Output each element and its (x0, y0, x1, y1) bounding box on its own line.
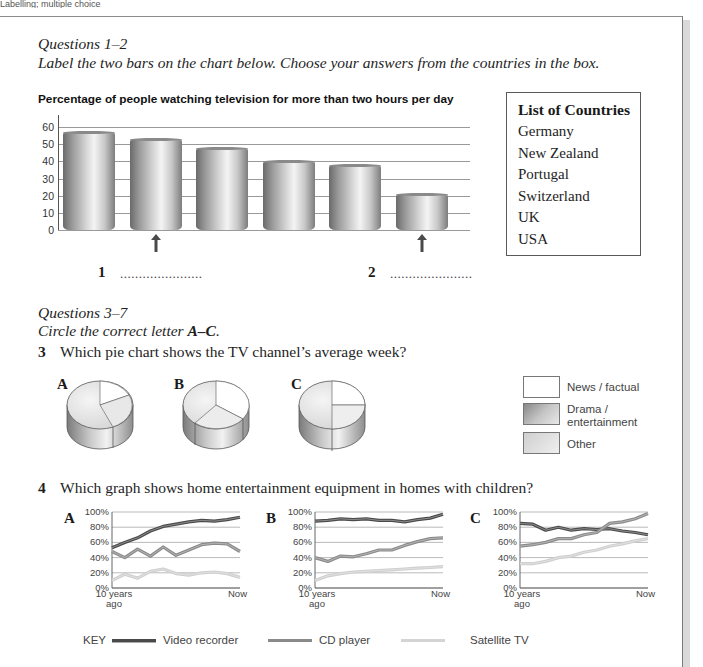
y-tick-label: 80% (281, 522, 312, 532)
line-chart-c[interactable]: 100%80%60%40%20%0%10 yearsagoNow (486, 509, 661, 619)
page-header: Labelling; multiple choice (0, 0, 160, 8)
country-list-box: List of Countries Germany New Zealand Po… (506, 92, 641, 256)
country-item: UK (518, 207, 640, 229)
answer-1-blank[interactable]: ...................... (120, 266, 203, 282)
legend-swatch-news (523, 376, 560, 398)
bar-top (396, 193, 448, 196)
legend-label-news: News / factual (567, 381, 639, 394)
y-tick-label: 60% (486, 537, 517, 547)
q4-option-a[interactable]: A (64, 510, 75, 527)
instruction-letters: A–C (188, 322, 216, 339)
bar (396, 194, 448, 230)
line-chart-a[interactable]: 100%80%60%40%20%0%10 yearsagoNow (78, 509, 253, 619)
line-chart-b[interactable]: 100%80%60%40%20%0%10 yearsagoNow (281, 509, 456, 619)
y-tick-label: 80% (486, 522, 517, 532)
y-tick-label: 20% (78, 568, 109, 578)
y-axis (58, 115, 59, 230)
y-tick-label: 40% (486, 553, 517, 563)
y-tick-label: 100% (281, 507, 312, 517)
question-3-text: Which pie chart shows the TV channel’s a… (60, 343, 406, 360)
country-item: USA (518, 229, 640, 251)
x-label-end: Now (636, 589, 655, 599)
legend-swatch-other (523, 432, 560, 454)
section-1-heading: Questions 1–2 (38, 34, 127, 53)
bar-top (63, 131, 115, 134)
q4-option-b[interactable]: B (266, 510, 276, 527)
answer-2-blank[interactable]: ...................... (390, 266, 473, 282)
question-3: 3Which pie chart shows the TV channel’s … (38, 343, 406, 361)
gridline (58, 127, 470, 128)
y-tick-label: 60 (38, 122, 54, 132)
key-label-satellite: Satellite TV (470, 633, 529, 647)
bar-top (329, 164, 381, 167)
question-4-number: 4 (38, 479, 60, 497)
key-swatch-cd (268, 639, 312, 642)
question-3-number: 3 (38, 343, 60, 361)
y-tick-label: 100% (78, 507, 109, 517)
section-1-instruction: Label the two bars on the chart below. C… (38, 53, 599, 72)
y-tick-label: 20% (281, 568, 312, 578)
country-list-title: List of Countries (518, 99, 640, 121)
legend-drama-line1: Drama / (567, 403, 608, 415)
bar (196, 148, 248, 230)
bar-chart: 0102030405060 (38, 115, 473, 240)
y-tick-label: 20% (486, 568, 517, 578)
question-4: 4Which graph shows home entertainment eq… (38, 479, 533, 497)
y-tick-label: 40 (38, 156, 54, 166)
y-tick-label: 50 (38, 139, 54, 149)
section-2-heading: Questions 3–7 (38, 303, 127, 322)
header-divider (0, 16, 683, 17)
bar-top (196, 147, 248, 150)
key-label-cd: CD player (319, 633, 370, 647)
x-label-end: Now (431, 589, 450, 599)
x-label-start: 10 yearsago (501, 589, 543, 609)
x-label-start: 10 yearsago (296, 589, 338, 609)
y-tick-label: 100% (486, 507, 517, 517)
y-tick-label: 40% (281, 553, 312, 563)
legend-label-other: Other (567, 438, 596, 451)
bar (63, 132, 115, 230)
key-label-video: Video recorder (163, 633, 238, 647)
legend-swatch-drama (523, 403, 560, 425)
y-tick-label: 60% (78, 537, 109, 547)
key-label: KEY (83, 633, 106, 647)
y-tick-label: 0 (38, 225, 54, 235)
page-shadow (683, 20, 690, 667)
country-item: Portugal (518, 164, 640, 186)
y-tick-label: 10 (38, 208, 54, 218)
y-tick-label: 80% (78, 522, 109, 532)
instruction-period: . (216, 322, 220, 339)
key-swatch-video (112, 639, 156, 642)
country-item: Switzerland (518, 186, 640, 208)
pie-chart-a[interactable] (65, 375, 135, 453)
bar-top (130, 138, 182, 141)
y-tick-label: 30 (38, 174, 54, 184)
y-tick-label: 40% (78, 553, 109, 563)
country-item: Germany (518, 121, 640, 143)
gridline (58, 230, 470, 231)
x-label-end: Now (228, 589, 247, 599)
pie-chart-b[interactable] (181, 375, 251, 453)
line-chart-key: KEY Video recorder CD player Satellite T… (83, 633, 603, 647)
bar-top (263, 160, 315, 163)
bar (263, 161, 315, 230)
question-4-text: Which graph shows home entertainment equ… (60, 479, 533, 496)
answer-1-number: 1 (98, 264, 106, 281)
bar-chart-title: Percentage of people watching television… (38, 92, 454, 106)
answer-2-number: 2 (368, 264, 376, 281)
legend-label-drama: Drama /entertainment (567, 403, 637, 429)
section-2-instruction: Circle the correct letter A–C. (38, 321, 220, 340)
x-label-start: 10 yearsago (93, 589, 135, 609)
y-tick-label: 60% (281, 537, 312, 547)
legend-drama-line2: entertainment (567, 416, 637, 428)
bar (130, 139, 182, 230)
instruction-text: Circle the correct letter (38, 322, 188, 339)
arrow-up-icon (417, 234, 427, 252)
key-swatch-satellite (401, 639, 445, 642)
pie-chart-c[interactable] (297, 375, 367, 453)
bar (329, 165, 381, 230)
y-tick-label: 20 (38, 191, 54, 201)
arrow-up-icon (151, 234, 161, 252)
gridline (58, 144, 470, 145)
q4-option-c[interactable]: C (470, 510, 481, 527)
